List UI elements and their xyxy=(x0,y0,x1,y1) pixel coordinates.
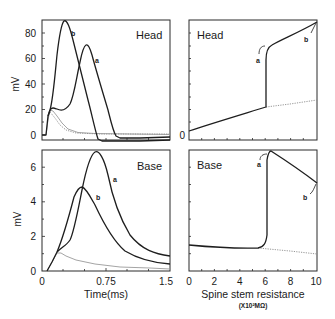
curve-label-b: b xyxy=(303,194,307,201)
curve-label-a: a xyxy=(257,161,261,168)
y-tick-label: 20 xyxy=(25,104,37,115)
passive-curve xyxy=(266,100,317,107)
x-tick-label: 10 xyxy=(310,276,322,287)
x-tick-label: 4 xyxy=(237,276,243,287)
y-tick-label: 0 xyxy=(30,266,36,277)
x-tick-label: 8 xyxy=(288,276,294,287)
figure: 0 20 40 60 80 mV Head b a xyxy=(0,0,335,319)
curve-label-b: b xyxy=(96,194,100,201)
arrow-b xyxy=(310,184,316,194)
panel-label: Head xyxy=(136,29,162,41)
ticks xyxy=(189,33,303,140)
x-tick-label: 0 xyxy=(186,276,192,287)
x-axis-label: Time(ms) xyxy=(84,288,128,300)
x-tick-label: 0 xyxy=(39,276,45,287)
x-tick-label: 6 xyxy=(262,276,268,287)
x-axis-units: (X10²MΩ) xyxy=(239,302,268,310)
x-axis-label: Spine stem resistance xyxy=(201,288,304,300)
panel-head-resistance: 0 Head a b xyxy=(179,20,317,141)
y-tick-label: 0 xyxy=(30,130,36,141)
passive-curve xyxy=(42,110,170,135)
y-tick-label: 4 xyxy=(30,196,36,207)
x-tick-label: 0.75 xyxy=(96,276,116,287)
y-tick-label: 6 xyxy=(30,162,36,173)
y-tick-label: 40 xyxy=(25,79,37,90)
y-axis-label: mV xyxy=(10,76,21,91)
curve-label-b: b xyxy=(304,36,308,43)
curve-b xyxy=(47,187,170,271)
curve-label-a: a xyxy=(256,57,260,64)
y-tick-label: 80 xyxy=(25,28,37,39)
arrow-a xyxy=(260,154,267,160)
panel-head-time: 0 20 40 60 80 mV Head b a xyxy=(10,20,170,141)
arrow-a xyxy=(259,46,265,54)
x-tick-label: 1.5 xyxy=(159,276,173,287)
curve-label-a: a xyxy=(95,57,99,64)
panel-base-resistance: 0 2 4 6 8 10 Spine stem resistance (X10²… xyxy=(186,150,322,310)
x-tick-label: 2 xyxy=(212,276,218,287)
ticks xyxy=(189,167,303,271)
panel-base-time: 0 2 4 6 mV 0 0.75 1.5 Time(ms) Base a b xyxy=(12,150,173,300)
y-tick-label: 0 xyxy=(179,130,185,141)
passive-curve xyxy=(258,248,317,254)
y-tick-label: 60 xyxy=(25,53,37,64)
curve-label-a: a xyxy=(113,176,117,183)
y-tick-label: 2 xyxy=(30,231,36,242)
curve-a xyxy=(48,45,170,138)
passive-curve-2 xyxy=(50,112,170,134)
y-axis-label: mV xyxy=(12,211,23,226)
panel-label: Base xyxy=(197,159,222,171)
curve-label-b: b xyxy=(71,30,75,37)
panel-label: Base xyxy=(137,160,162,172)
panel-label: Head xyxy=(197,29,223,41)
